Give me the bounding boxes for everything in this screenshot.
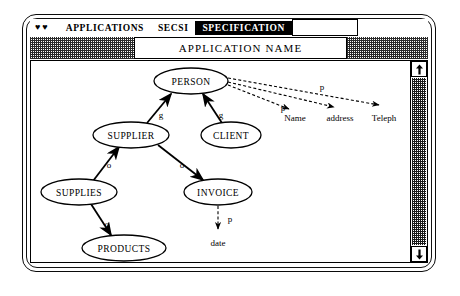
node-products[interactable]: PRODUCTS — [82, 235, 166, 261]
diagram-panel: PERSON SUPPLIER CLIENT SUPPLIES INVOICE — [30, 60, 428, 263]
menu-item-secsi[interactable]: SECSI — [151, 21, 195, 35]
diagram-canvas[interactable]: PERSON SUPPLIER CLIENT SUPPLIES INVOICE — [31, 61, 410, 262]
edge-label-supplies-products: o — [105, 219, 110, 229]
node-label-products: PRODUCTS — [98, 244, 151, 254]
node-supplier[interactable]: SUPPLIER — [93, 122, 169, 148]
vertical-scrollbar[interactable] — [410, 61, 427, 262]
entity-graph-svg: PERSON SUPPLIER CLIENT SUPPLIES INVOICE — [31, 61, 410, 262]
menu-item-applications[interactable]: APPLICATIONS — [59, 21, 151, 35]
node-supplies[interactable]: SUPPLIES — [41, 179, 117, 205]
node-label-invoice: INVOICE — [197, 188, 239, 198]
edge-label-invoice-date: p — [228, 214, 233, 224]
node-client[interactable]: CLIENT — [201, 122, 261, 148]
menu-empty-field[interactable] — [292, 19, 358, 36]
node-label-person: PERSON — [172, 77, 211, 87]
attribute-label-teleph: Teleph — [372, 113, 397, 123]
node-person[interactable]: PERSON — [154, 68, 228, 94]
scrollbar-track[interactable] — [412, 78, 426, 245]
edge-label-supplies-supplier: o — [107, 160, 112, 170]
edge-label-supplier-person: g — [159, 110, 164, 120]
edge-label-person-teleph: p — [320, 82, 325, 92]
menu-item-specification[interactable]: SPECIFICATION — [195, 21, 292, 35]
attribute-label-address: address — [327, 113, 354, 123]
edge-label-supplier-invoice: o — [180, 160, 185, 170]
scroll-down-icon[interactable] — [411, 246, 427, 262]
toolbar-row: APPLICATION NAME — [30, 37, 428, 59]
toolbar-right-pattern — [347, 37, 428, 59]
application-name-field[interactable]: APPLICATION NAME — [134, 37, 347, 59]
edge-person-teleph — [228, 78, 379, 105]
attribute-label-name: Name — [284, 113, 306, 123]
screenshot-root: ♥♥ APPLICATIONS SECSI SPECIFICATION APPL… — [0, 0, 460, 296]
edge-label-client-person: g — [219, 110, 224, 120]
scroll-up-icon[interactable] — [411, 61, 427, 77]
edge-label-person-name: p — [281, 103, 286, 113]
menu-bar: ♥♥ APPLICATIONS SECSI SPECIFICATION — [30, 19, 428, 36]
node-label-client: CLIENT — [213, 131, 249, 141]
toolbar-left-pattern — [30, 37, 134, 59]
hearts-icon[interactable]: ♥♥ — [35, 23, 50, 32]
node-label-supplies: SUPPLIES — [56, 188, 102, 198]
attribute-label-date: date — [211, 238, 226, 248]
node-label-supplier: SUPPLIER — [107, 131, 154, 141]
node-invoice[interactable]: INVOICE — [184, 179, 252, 205]
